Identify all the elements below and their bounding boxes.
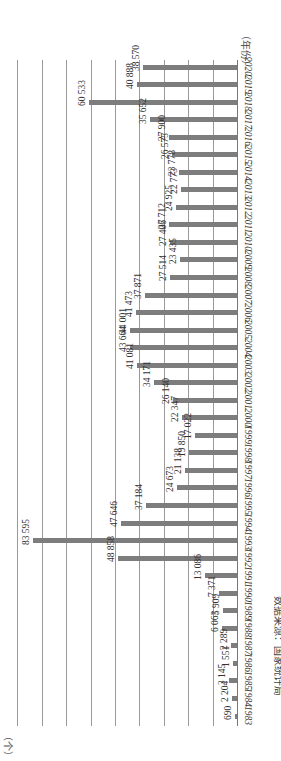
axis-baseline xyxy=(237,60,238,726)
year-label: 2002 xyxy=(243,373,253,392)
bar-2015 xyxy=(172,152,237,157)
year-label: 1998 xyxy=(243,443,253,462)
bar-2009 xyxy=(180,257,237,262)
bar-2001 xyxy=(173,398,237,403)
bar-1984 xyxy=(232,696,237,701)
gridline xyxy=(42,60,43,726)
year-label: 2008 xyxy=(243,267,253,286)
value-label: 83 595 xyxy=(21,518,31,544)
gridline xyxy=(66,60,67,726)
value-label: 35 652 xyxy=(138,97,148,123)
bar-2006 xyxy=(136,310,237,315)
year-label: 2015 xyxy=(243,145,253,164)
year-label: 1990 xyxy=(243,583,253,602)
bar-1999 xyxy=(195,433,237,438)
value-label: 37 184 xyxy=(134,483,144,509)
year-label: 2004 xyxy=(243,338,253,357)
year-label: 1999 xyxy=(243,425,253,444)
value-label: 23 435 xyxy=(168,238,178,264)
bar-2010 xyxy=(170,240,237,245)
value-label: 13 086 xyxy=(193,554,203,580)
gridline xyxy=(139,60,140,726)
gridline xyxy=(17,60,18,726)
value-label: 48 858 xyxy=(106,536,116,562)
bar-1992 xyxy=(118,556,237,561)
year-label: 1986 xyxy=(243,653,253,672)
gridline xyxy=(188,60,189,726)
bar-1998 xyxy=(189,450,237,455)
gridline xyxy=(91,60,92,726)
year-label: 2018 xyxy=(243,92,253,111)
value-label: 60 533 xyxy=(77,80,87,106)
year-label: 2006 xyxy=(243,303,253,322)
year-label: 2007 xyxy=(243,285,253,304)
bar-2013 xyxy=(181,187,237,192)
y-axis-unit-label: （个） xyxy=(1,731,16,761)
value-label: 38 570 xyxy=(131,45,141,71)
bar-2008 xyxy=(170,275,237,280)
bar-2016 xyxy=(169,135,237,140)
year-label: 2001 xyxy=(243,390,253,409)
bar-2004 xyxy=(130,345,237,350)
year-label: 1987 xyxy=(243,636,253,655)
year-label: 2000 xyxy=(243,408,253,427)
bar-2018 xyxy=(89,100,237,105)
value-label: 26 140 xyxy=(161,378,171,404)
value-label: 47 646 xyxy=(109,501,119,527)
bar-1985 xyxy=(229,678,237,683)
bar-1983 xyxy=(235,714,237,719)
year-label: 1984 xyxy=(243,688,253,707)
year-label: 2005 xyxy=(243,320,253,339)
value-label: 27 900 xyxy=(157,115,167,141)
year-label: 2014 xyxy=(243,162,253,181)
year-label: 1995 xyxy=(243,496,253,515)
year-label: 1988 xyxy=(243,618,253,637)
year-label: 1993 xyxy=(243,531,253,550)
bar-2014 xyxy=(179,170,237,175)
bar-2012 xyxy=(176,205,237,210)
year-label: 1996 xyxy=(243,478,253,497)
bar-1995 xyxy=(146,503,237,508)
bar-2019 xyxy=(137,82,237,87)
year-label: 1983 xyxy=(243,706,253,725)
gridline xyxy=(115,60,116,726)
year-label: 1992 xyxy=(243,548,253,567)
year-label: 2016 xyxy=(243,127,253,146)
bar-1986 xyxy=(233,661,237,666)
value-label: 7 371 xyxy=(207,576,217,597)
value-label: 2 289 xyxy=(219,628,229,649)
bar-1993 xyxy=(33,538,237,543)
year-label: 1994 xyxy=(243,513,253,532)
bar-2005 xyxy=(130,328,237,333)
bar-2020 xyxy=(143,65,237,70)
bar-1996 xyxy=(177,485,237,490)
year-label: 2013 xyxy=(243,180,253,199)
bar-2011 xyxy=(169,222,237,227)
value-label: 37 871 xyxy=(133,273,143,299)
year-label: 2017 xyxy=(243,110,253,129)
bar-2007 xyxy=(145,293,237,298)
bar-1987 xyxy=(231,643,237,648)
year-label: 2003 xyxy=(243,355,253,374)
year-label: 1991 xyxy=(243,566,253,585)
value-label: 34 171 xyxy=(142,361,152,387)
year-label: 2010 xyxy=(243,232,253,251)
x-axis-category-label: （年份） xyxy=(239,30,254,70)
year-label: 2019 xyxy=(243,75,253,94)
year-label: 1989 xyxy=(243,601,253,620)
bar-chart: 69019832 20419843 14519851 55119862 2891… xyxy=(0,0,281,761)
bar-1990 xyxy=(219,591,237,596)
value-label: 690 xyxy=(223,706,233,720)
year-label: 2009 xyxy=(243,250,253,269)
value-label: 27 514 xyxy=(158,255,168,281)
value-label: 22 347 xyxy=(170,396,180,422)
year-label: 2011 xyxy=(243,215,253,233)
year-label: 1997 xyxy=(243,460,253,479)
value-label: 17 022 xyxy=(183,413,193,439)
year-label: 2012 xyxy=(243,197,253,216)
bar-1994 xyxy=(121,521,237,526)
year-label: 1985 xyxy=(243,671,253,690)
bar-1997 xyxy=(185,468,237,473)
source-note: 数据来源：国家统计局 xyxy=(272,596,281,696)
bar-1989 xyxy=(223,608,237,613)
